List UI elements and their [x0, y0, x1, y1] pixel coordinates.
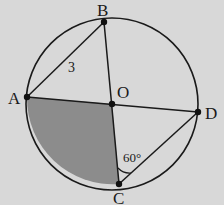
label-c: C: [113, 189, 124, 205]
shaded-sector-aoc: [27, 97, 119, 184]
label-d: D: [205, 104, 217, 123]
point-a: [24, 94, 30, 100]
label-angle-60: 60°: [123, 150, 141, 165]
angle-arc-c: [118, 168, 131, 173]
label-o: O: [117, 83, 129, 102]
point-o: [109, 101, 115, 107]
geometry-diagram: A B O C D 3 60°: [0, 0, 224, 205]
label-b: B: [97, 1, 108, 20]
label-ab-length: 3: [68, 60, 75, 75]
label-a: A: [8, 89, 21, 108]
point-d: [195, 109, 201, 115]
diagram-canvas: A B O C D 3 60°: [0, 0, 224, 205]
point-c: [116, 181, 122, 187]
